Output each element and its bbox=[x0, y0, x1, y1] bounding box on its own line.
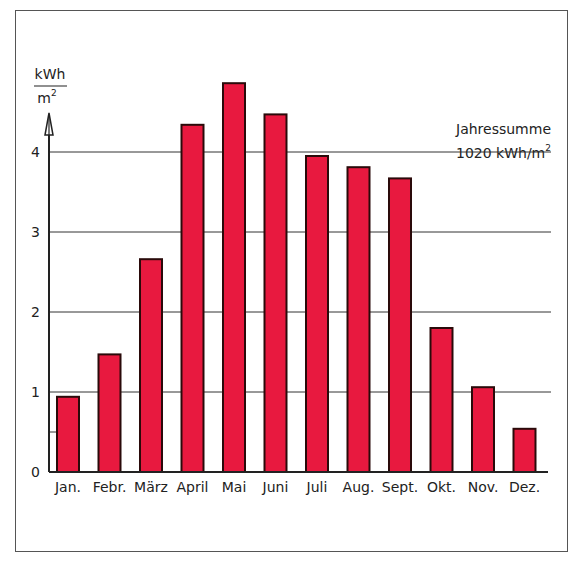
x-tick-label: Mai bbox=[222, 479, 247, 495]
x-tick-label: Aug. bbox=[343, 479, 375, 495]
x-tick-label: Nov. bbox=[468, 479, 499, 495]
y-tick-labels: 01234 bbox=[31, 144, 40, 480]
x-tick-label: Dez. bbox=[509, 479, 540, 495]
bar-aug bbox=[348, 167, 370, 472]
x-tick-labels: Jan.Febr.MärzAprilMaiJuniJuliAug.Sept.Ok… bbox=[54, 479, 540, 495]
bar-jan bbox=[57, 397, 79, 472]
x-tick-label: Juli bbox=[306, 479, 328, 495]
y-unit-denominator: m2 bbox=[37, 88, 56, 106]
bar-nov bbox=[472, 387, 494, 472]
bar-chart: kWh m2 Jahressumme 1020 kWh/m2 01234 Jan… bbox=[0, 0, 580, 568]
bar-sept bbox=[389, 178, 411, 472]
bar-juni bbox=[265, 114, 287, 472]
bars bbox=[57, 83, 536, 472]
x-tick-label: März bbox=[134, 479, 168, 495]
bar-juli bbox=[306, 156, 328, 472]
x-tick-label: Febr. bbox=[93, 479, 127, 495]
bar-april bbox=[182, 125, 204, 472]
annual-sum-label: Jahressumme bbox=[455, 121, 551, 137]
x-tick-label: Sept. bbox=[382, 479, 418, 495]
y-axis-unit-label: kWh m2 bbox=[34, 66, 67, 106]
x-tick-label: Okt. bbox=[427, 479, 456, 495]
y-tick-label: 3 bbox=[31, 224, 40, 240]
y-tick-label: 4 bbox=[31, 144, 40, 160]
bar-dez bbox=[514, 429, 536, 472]
annual-sum-annotation: Jahressumme 1020 kWh/m2 bbox=[455, 121, 551, 161]
y-unit-numerator: kWh bbox=[35, 66, 66, 82]
x-tick-label: April bbox=[177, 479, 209, 495]
y-tick-label: 1 bbox=[31, 384, 40, 400]
bar-mai bbox=[223, 83, 245, 472]
y-tick-label: 2 bbox=[31, 304, 40, 320]
bar-mrz bbox=[140, 259, 162, 472]
x-tick-label: Jan. bbox=[54, 479, 81, 495]
bar-febr bbox=[99, 354, 121, 472]
x-tick-label: Juni bbox=[262, 479, 289, 495]
bar-okt bbox=[431, 328, 453, 472]
y-tick-label: 0 bbox=[31, 464, 40, 480]
